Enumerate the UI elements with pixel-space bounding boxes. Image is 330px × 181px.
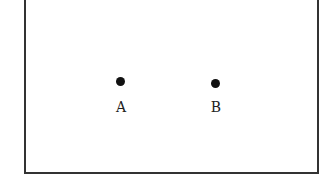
point-b-label: B: [211, 100, 221, 114]
point-a-dot: [116, 77, 125, 86]
point-b-dot: [211, 79, 220, 88]
diagram-frame: [24, 0, 319, 174]
point-a-label: A: [116, 100, 126, 114]
